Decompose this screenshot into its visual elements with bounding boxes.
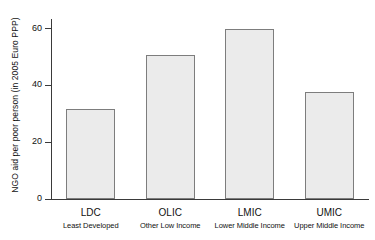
bars-layer	[51, 20, 369, 199]
category-description: Upper Middle Income	[290, 221, 370, 230]
bar-umic	[305, 92, 354, 199]
category-description: Lower Middle Income	[210, 221, 290, 230]
bar-ldc	[66, 109, 115, 199]
y-axis-tick-label: 0	[12, 194, 42, 203]
category-description: Other Low Income	[131, 221, 211, 230]
y-axis-tick-label: 40	[12, 80, 42, 89]
category-label-lmic: LMICLower Middle Income	[210, 207, 290, 230]
category-description: Least Developed	[51, 221, 131, 230]
bar-olic	[146, 55, 195, 199]
category-label-umic: UMICUpper Middle Income	[290, 207, 370, 230]
category-label-ldc: LDCLeast Developed	[51, 207, 131, 230]
category-code: LMIC	[210, 207, 290, 218]
category-code: LDC	[51, 207, 131, 218]
category-code: OLIC	[131, 207, 211, 218]
category-label-olic: OLICOther Low Income	[131, 207, 211, 230]
x-axis-line	[51, 199, 369, 200]
y-axis-title: NGO aid per poor person (in 2005 Euro PP…	[8, 5, 22, 205]
bar-chart: NGO aid per poor person (in 2005 Euro PP…	[0, 0, 375, 240]
bar-lmic	[225, 29, 274, 199]
y-axis-tick-label: 60	[12, 24, 42, 33]
category-code: UMIC	[290, 207, 370, 218]
y-axis-tick-label: 20	[12, 137, 42, 146]
